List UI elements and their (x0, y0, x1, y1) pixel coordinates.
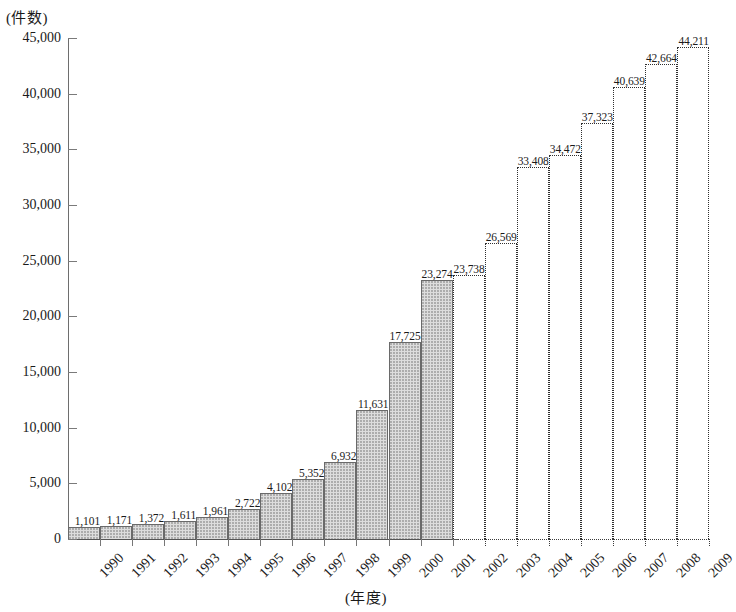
y-axis-unit-label: (件数) (6, 6, 48, 27)
y-axis-tick-label: 25,000 (23, 253, 62, 269)
bar-value-label: 17,725 (390, 330, 421, 342)
y-axis-tick: 35,000 (68, 149, 77, 150)
bar-value-label: 42,664 (646, 52, 677, 64)
x-axis-label-2004: 2004 (545, 550, 576, 581)
bar-value-label: 1,961 (203, 505, 228, 517)
x-axis-line-projected (458, 539, 709, 540)
x-axis-label-1997: 1997 (320, 550, 351, 581)
x-axis-tick (485, 539, 486, 546)
bar-value-label: 44,211 (678, 35, 709, 47)
x-axis-label-1994: 1994 (224, 550, 255, 581)
bar-1992: 1,372 (132, 524, 164, 539)
x-axis-tick (292, 539, 293, 546)
bar-value-label: 4,102 (267, 481, 292, 493)
bar-value-label: 1,611 (171, 509, 196, 521)
x-axis-label-1993: 1993 (192, 550, 223, 581)
bar-1993: 1,611 (164, 521, 196, 539)
x-axis-label-2000: 2000 (417, 550, 448, 581)
bar-value-label: 26,569 (486, 231, 517, 243)
bar-value-label: 6,932 (331, 450, 356, 462)
bar-2008: 42,664 (645, 64, 677, 539)
y-axis-tick-label: 40,000 (23, 86, 62, 102)
x-axis-tick (709, 539, 710, 546)
x-axis-unit-label: (年度) (0, 586, 732, 607)
x-axis-label-2002: 2002 (481, 550, 512, 581)
bar-2002: 23,738 (453, 275, 485, 539)
bar-1997: 5,352 (292, 479, 324, 539)
x-axis-tick (549, 539, 550, 546)
y-axis-tick: 10,000 (68, 428, 77, 429)
bar-value-label: 1,101 (75, 515, 100, 527)
x-axis-label-1991: 1991 (128, 550, 159, 581)
y-axis-tick-label: 30,000 (23, 197, 62, 213)
x-axis-tick (389, 539, 390, 546)
y-axis-tick-label: 10,000 (23, 420, 62, 436)
bar-1991: 1,171 (100, 526, 132, 539)
x-axis-label-2006: 2006 (609, 550, 640, 581)
x-axis-label-1996: 1996 (288, 550, 319, 581)
bar-value-label: 1,171 (107, 514, 132, 526)
x-axis-tick (453, 539, 454, 546)
x-axis-label-1990: 1990 (96, 550, 127, 581)
x-axis-tick (324, 539, 325, 546)
x-axis-tick (164, 539, 165, 546)
y-axis-tick: 5,000 (68, 483, 77, 484)
y-axis-tick: 30,000 (68, 205, 77, 206)
x-axis-tick (132, 539, 133, 546)
y-axis-tick-label: 45,000 (23, 30, 62, 46)
bar-value-label: 2,722 (235, 497, 260, 509)
y-axis-tick: 40,000 (68, 94, 77, 95)
bar-value-label: 1,372 (139, 512, 164, 524)
x-axis-tick (645, 539, 646, 546)
x-axis-label-2008: 2008 (673, 550, 704, 581)
bar-value-label: 23,738 (454, 263, 485, 275)
bar-value-label: 33,408 (518, 155, 549, 167)
x-axis-tick (613, 539, 614, 546)
bar-1998: 6,932 (324, 462, 356, 539)
x-axis-label-1992: 1992 (160, 550, 191, 581)
bar-1990: 1,101 (68, 527, 100, 539)
y-axis-tick-label: 15,000 (23, 364, 62, 380)
x-axis-line (68, 539, 458, 540)
x-axis-label-2003: 2003 (513, 550, 544, 581)
x-axis-tick (228, 539, 229, 546)
bar-value-label: 11,631 (358, 398, 389, 410)
bar-1994: 1,961 (196, 517, 228, 539)
bar-2001: 23,274 (421, 280, 453, 539)
y-axis-tick: 0 (68, 539, 77, 540)
bar-2004: 33,408 (517, 167, 549, 539)
bar-value-label: 37,323 (582, 111, 613, 123)
y-axis-tick: 25,000 (68, 261, 77, 262)
bar-2005: 34,472 (549, 155, 581, 539)
plot-area: 05,00010,00015,00020,00025,00030,00035,0… (68, 38, 709, 540)
x-axis-label-1999: 1999 (385, 550, 416, 581)
bar-2009: 44,211 (677, 47, 709, 539)
y-axis-line (68, 38, 69, 540)
y-axis-tick: 15,000 (68, 372, 77, 373)
bar-value-label: 23,274 (422, 268, 453, 280)
bar-value-label: 5,352 (299, 467, 324, 479)
x-axis-tick (100, 539, 101, 546)
x-axis-tick (356, 539, 357, 546)
x-axis-tick (677, 539, 678, 546)
x-axis-label-2009: 2009 (705, 550, 736, 581)
bar-2003: 26,569 (485, 243, 517, 539)
y-axis-tick: 20,000 (68, 316, 77, 317)
x-axis-label-1998: 1998 (352, 550, 383, 581)
bar-2000: 17,725 (389, 342, 421, 539)
bar-2006: 37,323 (581, 123, 613, 539)
bar-1995: 2,722 (228, 509, 260, 539)
y-axis-tick-label: 35,000 (23, 141, 62, 157)
x-axis-tick (196, 539, 197, 546)
y-axis-tick: 45,000 (68, 38, 77, 39)
x-axis-label-2005: 2005 (577, 550, 608, 581)
bar-1996: 4,102 (260, 493, 292, 539)
bar-value-label: 40,639 (614, 75, 645, 87)
x-axis-label-2007: 2007 (641, 550, 672, 581)
y-axis-tick-label: 5,000 (30, 475, 62, 491)
x-axis-tick (421, 539, 422, 546)
bar-1999: 11,631 (356, 410, 388, 539)
y-axis-tick-label: 0 (54, 531, 61, 547)
x-axis-tick (517, 539, 518, 546)
